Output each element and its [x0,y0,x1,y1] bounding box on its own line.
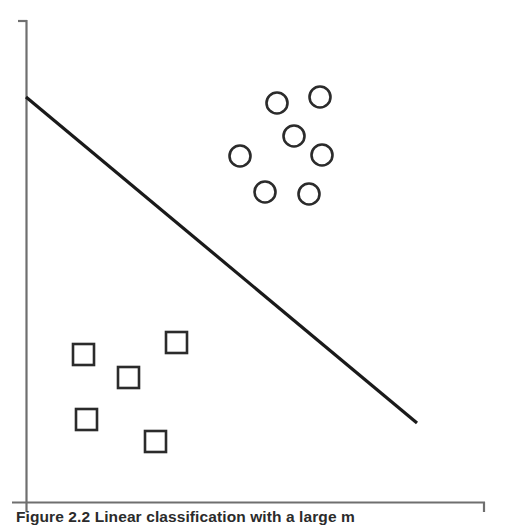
circle-marker [255,182,276,203]
circle-marker [284,126,305,147]
figure-caption: Figure 2.2 Linear classification with a … [16,508,511,525]
figure-container: Figure 2.2 Linear classification with a … [0,0,511,525]
circle-marker [312,145,333,166]
scatter-plot [0,0,511,525]
square-marker [73,344,94,365]
figure-caption-label: Figure 2.2 [16,508,90,525]
circle-marker [230,146,251,167]
square-marker [118,367,139,388]
square-marker [145,431,166,452]
circle-marker [267,93,288,114]
circle-marker [310,87,331,108]
figure-caption-text: Linear classification with a large m [95,508,355,525]
decision-boundary-line [26,97,417,423]
circle-marker [299,184,320,205]
y-axis [18,20,27,512]
square-marker-group [73,332,187,452]
square-marker [76,409,97,430]
circle-marker-group [230,87,333,205]
square-marker [166,332,187,353]
